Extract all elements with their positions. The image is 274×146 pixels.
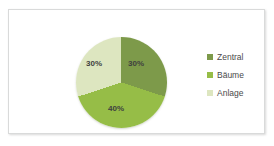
- legend-item-zentral[interactable]: Zentral: [207, 48, 267, 66]
- legend-swatch-icon-anlage: [207, 90, 213, 96]
- pie-chart[interactable]: [76, 37, 167, 128]
- legend-swatch-icon-zentral: [207, 54, 213, 60]
- legend-item-anlage[interactable]: Anlage: [207, 84, 267, 102]
- legend-label-zentral: Zentral: [217, 52, 243, 62]
- chart-screenshot: 30% 40% 30% Zentral Bäume Anlage: [0, 0, 274, 146]
- legend-label-anlage: Anlage: [217, 88, 243, 98]
- pie-plot-area: 30% 40% 30%: [9, 10, 194, 133]
- chart-legend: Zentral Bäume Anlage: [207, 48, 267, 102]
- legend-swatch-icon-baeume: [207, 72, 213, 78]
- legend-item-baeume[interactable]: Bäume: [207, 66, 267, 84]
- chart-frame: 30% 40% 30% Zentral Bäume Anlage: [8, 9, 265, 134]
- legend-label-baeume: Bäume: [217, 70, 244, 80]
